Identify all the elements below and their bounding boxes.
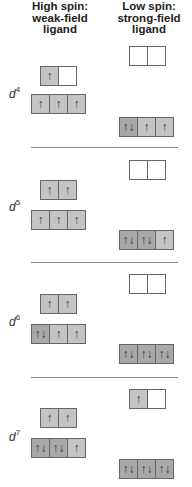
orbital-box: ↑ — [49, 324, 68, 344]
high-spin-t2g-d5: ↑ ↑ ↑ — [31, 210, 86, 230]
low-spin-eg-d6 — [129, 274, 166, 294]
orbital-box: ↑ — [58, 294, 77, 314]
orbital-box: ↑ — [58, 408, 77, 428]
orbital-box: ↑↓ — [137, 230, 156, 250]
high-spin-eg-d7: ↑ ↑ — [40, 408, 77, 428]
low-spin-eg-d7: ↑ — [129, 389, 166, 409]
header-line: ligand — [109, 24, 189, 36]
high-spin-t2g-d4: ↑ ↑ ↑ — [31, 94, 86, 114]
header-line: High spin: — [20, 1, 100, 13]
low-spin-t2g-d7: ↑↓ ↑↓ ↑↓ — [119, 459, 174, 479]
orbital-box: ↑ — [155, 230, 174, 250]
low-spin-t2g-d4: ↑↓ ↑ ↑ — [119, 117, 174, 137]
low-spin-t2g-d5: ↑↓ ↑↓ ↑ — [119, 230, 174, 250]
section-divider — [31, 262, 178, 263]
orbital-box: ↑↓ — [31, 324, 50, 344]
header-line: Low spin: — [109, 1, 189, 13]
orbital-box: ↑↓ — [155, 459, 174, 479]
low-spin-header: Low spin: strong-field ligand — [109, 1, 189, 36]
orbital-box: ↑↓ — [137, 459, 156, 479]
config-label-d4: d4 — [9, 86, 20, 101]
high-spin-header: High spin: weak-field ligand — [20, 1, 100, 36]
header-line: ligand — [20, 24, 100, 36]
orbital-box: ↑ — [40, 408, 59, 428]
orbital-box — [147, 274, 166, 294]
orbital-box — [129, 46, 148, 66]
orbital-box: ↑↓ — [119, 344, 138, 364]
low-spin-eg-d4 — [129, 46, 166, 66]
orbital-box — [147, 46, 166, 66]
orbital-box: ↑↓ — [49, 438, 68, 458]
orbital-box: ↑↓ — [137, 344, 156, 364]
high-spin-eg-d6: ↑ ↑ — [40, 294, 77, 314]
section-divider — [31, 147, 178, 148]
high-spin-eg-d4: ↑ — [40, 66, 77, 86]
orbital-box: ↑ — [67, 94, 86, 114]
orbital-box: ↑ — [67, 324, 86, 344]
orbital-box — [58, 66, 77, 86]
orbital-box: ↑ — [67, 438, 86, 458]
orbital-box: ↑ — [49, 94, 68, 114]
orbital-box: ↑ — [129, 389, 148, 409]
config-label-d7: d7 — [9, 429, 20, 444]
orbital-box: ↑ — [155, 117, 174, 137]
low-spin-eg-d5 — [129, 160, 166, 180]
section-divider — [31, 377, 178, 378]
orbital-box — [147, 160, 166, 180]
high-spin-eg-d5: ↑ ↑ — [40, 180, 77, 200]
orbital-box: ↑↓ — [155, 344, 174, 364]
orbital-box — [129, 160, 148, 180]
orbital-box: ↑↓ — [119, 117, 138, 137]
orbital-box: ↑ — [40, 180, 59, 200]
orbital-box — [147, 389, 166, 409]
orbital-box: ↑ — [31, 94, 50, 114]
config-label-d6: d6 — [9, 314, 20, 329]
orbital-box: ↑ — [49, 210, 68, 230]
high-spin-t2g-d7: ↑↓ ↑↓ ↑ — [31, 438, 86, 458]
orbital-box: ↑ — [58, 180, 77, 200]
orbital-box: ↑ — [31, 210, 50, 230]
orbital-box — [129, 274, 148, 294]
orbital-box: ↑ — [137, 117, 156, 137]
low-spin-t2g-d6: ↑↓ ↑↓ ↑↓ — [119, 344, 174, 364]
orbital-box: ↑↓ — [119, 459, 138, 479]
orbital-box: ↑ — [67, 210, 86, 230]
orbital-box: ↑ — [40, 294, 59, 314]
orbital-box: ↑ — [40, 66, 59, 86]
high-spin-t2g-d6: ↑↓ ↑ ↑ — [31, 324, 86, 344]
orbital-box: ↑↓ — [31, 438, 50, 458]
config-label-d5: d5 — [9, 199, 20, 214]
orbital-box: ↑↓ — [119, 230, 138, 250]
